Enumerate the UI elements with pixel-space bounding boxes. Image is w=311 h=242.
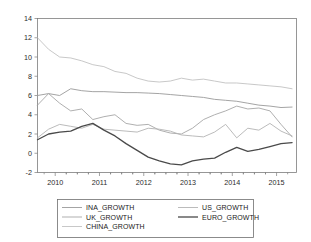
legend-label-ina-growth: INA_GROWTH <box>86 204 134 212</box>
legend-label-china-growth: CHINA_GROWTH <box>86 223 145 231</box>
legend-label-us-growth: US_GROWTH <box>202 204 248 212</box>
series-line-us-growth <box>38 123 293 137</box>
x-tick-label: 2015 <box>269 178 285 187</box>
y-tick-label: 4 <box>28 110 32 119</box>
x-tick-label: 2013 <box>180 178 196 187</box>
x-tick-label: 2014 <box>224 178 240 187</box>
legend-label-euro-growth: EURO_GROWTH <box>202 214 259 222</box>
y-tick-label: 12 <box>24 33 32 42</box>
series-line-china-growth <box>38 38 293 89</box>
y-axis-labels: -202468101214 <box>24 14 32 177</box>
x-tick-label: 2012 <box>136 178 152 187</box>
y-tick-label: 8 <box>28 72 32 81</box>
data-series-group <box>38 38 293 165</box>
x-tick-label: 2010 <box>47 178 63 187</box>
line-chart: -202468101214 201020112012201320142015 I… <box>0 0 311 242</box>
y-tick-label: 0 <box>28 149 32 158</box>
x-axis-ticks <box>44 173 288 177</box>
series-line-ina-growth <box>38 89 293 108</box>
legend-label-uk-growth: UK_GROWTH <box>86 214 132 222</box>
y-tick-label: 2 <box>28 130 32 139</box>
chart-figure: -202468101214 201020112012201320142015 I… <box>0 0 311 242</box>
x-axis-labels: 201020112012201320142015 <box>47 178 284 187</box>
y-tick-label: 14 <box>24 14 32 23</box>
y-tick-label: 6 <box>28 91 32 100</box>
x-tick-label: 2011 <box>92 178 107 187</box>
y-tick-label: 10 <box>24 53 32 62</box>
y-tick-label: -2 <box>26 168 32 177</box>
chart-legend: INA_GROWTHUS_GROWTHUK_GROWTHEURO_GROWTHC… <box>58 200 260 238</box>
